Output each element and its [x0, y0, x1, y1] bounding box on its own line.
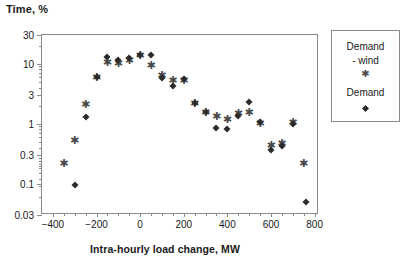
x-axis-minor-tick	[75, 213, 76, 216]
data-point-diamond	[191, 100, 198, 107]
data-point-star: ✱	[266, 140, 275, 151]
y-axis-minor-tick	[39, 88, 42, 89]
y-axis-minor-tick	[39, 161, 42, 162]
y-axis-title: Time, %	[6, 3, 48, 15]
y-axis-tick-label: 1	[28, 118, 34, 129]
x-axis-minor-tick	[86, 213, 87, 216]
data-point-diamond	[278, 143, 285, 150]
data-point-diamond	[302, 198, 309, 205]
x-axis-minor-tick	[293, 213, 294, 216]
chart-legend: Demand - wind ✱ Demand	[331, 30, 400, 122]
data-point-diamond	[289, 120, 296, 127]
data-point-star: ✱	[234, 108, 243, 119]
y-axis-minor-tick	[39, 106, 42, 107]
data-point-diamond	[115, 56, 122, 63]
data-point-star: ✱	[299, 158, 308, 169]
x-axis-tick	[227, 213, 228, 217]
data-point-star: ✱	[103, 57, 112, 68]
data-point-diamond	[104, 53, 111, 60]
data-point-diamond	[126, 54, 133, 61]
data-point-star: ✱	[114, 58, 123, 69]
x-axis-minor-tick	[304, 213, 305, 216]
y-axis-minor-tick	[39, 73, 42, 74]
data-point-star: ✱	[168, 75, 177, 86]
y-axis-minor-tick	[39, 197, 42, 198]
data-point-star: ✱	[92, 71, 101, 82]
x-axis-minor-tick	[107, 213, 108, 216]
data-point-diamond	[169, 82, 176, 89]
x-axis-minor-tick	[173, 213, 174, 216]
x-axis-minor-tick	[282, 213, 283, 216]
x-axis-tick-label: 0	[137, 219, 143, 230]
y-axis-minor-tick	[39, 69, 42, 70]
y-axis-minor-tick	[39, 166, 42, 167]
data-point-diamond	[82, 113, 89, 120]
y-axis-tick	[37, 215, 42, 216]
x-axis-title: Intra-hourly load change, MW	[0, 243, 330, 255]
x-axis-minor-tick	[64, 213, 65, 216]
data-point-diamond	[180, 75, 187, 82]
data-point-star: ✱	[146, 59, 155, 70]
data-point-diamond	[148, 51, 155, 58]
legend-entry-0-label-line1: Demand	[347, 41, 385, 53]
data-point-star: ✱	[136, 50, 145, 61]
data-point-star: ✱	[277, 138, 286, 149]
x-axis-minor-tick	[195, 213, 196, 216]
data-point-diamond	[267, 146, 274, 153]
data-point-star: ✱	[179, 75, 188, 86]
x-axis-tick-label: 800	[306, 219, 323, 230]
y-axis-tick-label: 0.03	[15, 210, 34, 221]
x-axis-minor-tick	[260, 213, 261, 216]
y-axis-tick	[37, 184, 42, 185]
y-axis-tick-label: 10	[23, 58, 34, 69]
x-axis-minor-tick	[129, 213, 130, 216]
data-point-diamond	[235, 112, 242, 119]
data-point-star: ✱	[70, 135, 79, 146]
y-axis-tick-label: 30	[23, 30, 34, 41]
data-point-star: ✱	[201, 106, 210, 117]
y-axis-minor-tick	[39, 148, 42, 149]
data-point-star: ✱	[81, 99, 90, 110]
data-point-diamond	[71, 181, 78, 188]
x-axis-minor-tick	[216, 213, 217, 216]
x-axis-minor-tick	[206, 213, 207, 216]
data-point-star: ✱	[59, 158, 68, 169]
data-point-star: ✱	[125, 55, 134, 66]
x-axis-tick	[315, 213, 316, 217]
x-axis-tick-label: 200	[175, 219, 192, 230]
data-point-diamond	[257, 119, 264, 126]
data-point-star: ✱	[245, 107, 254, 118]
legend-entry-1-label-line1: Demand	[347, 87, 385, 99]
data-point-star: ✱	[256, 118, 265, 129]
y-axis-minor-tick	[39, 137, 42, 138]
data-point-diamond	[137, 51, 144, 58]
x-axis-tick-label: 600	[263, 219, 280, 230]
data-point-diamond	[158, 75, 165, 82]
x-axis-tick	[271, 213, 272, 217]
x-axis-minor-tick	[162, 213, 163, 216]
y-axis-minor-tick	[39, 158, 42, 159]
data-point-layer: ✱✱✱✱✱✱✱✱✱✱✱✱✱✱✱✱✱✱✱✱✱✱✱	[42, 35, 317, 213]
y-axis-minor-tick	[39, 168, 42, 169]
data-point-diamond	[224, 125, 231, 132]
y-axis-minor-tick	[39, 155, 42, 156]
legend-star-marker-icon: ✱	[361, 69, 369, 79]
data-point-star: ✱	[288, 117, 297, 128]
x-axis-tick-label: 400	[219, 219, 236, 230]
plot-area: ✱✱✱✱✱✱✱✱✱✱✱✱✱✱✱✱✱✱✱✱✱✱✱ 3010310.30.10.03…	[41, 34, 318, 214]
y-axis-tick-label: 0.3	[20, 150, 34, 161]
x-axis-minor-tick	[238, 213, 239, 216]
x-axis-minor-tick	[151, 213, 152, 216]
x-axis-minor-tick	[118, 213, 119, 216]
y-axis-minor-tick	[39, 77, 42, 78]
x-axis-tick	[53, 213, 54, 217]
y-axis-minor-tick	[39, 129, 42, 130]
y-axis-minor-tick	[39, 82, 42, 83]
y-axis-tick-label: 3	[28, 90, 34, 101]
y-axis-tick	[37, 35, 42, 36]
y-axis-minor-tick	[39, 126, 42, 127]
chart-canvas: Time, % ✱✱✱✱✱✱✱✱✱✱✱✱✱✱✱✱✱✱✱✱✱✱✱ 3010310.…	[0, 0, 406, 266]
y-axis-minor-tick	[39, 179, 42, 180]
data-point-star: ✱	[157, 70, 166, 81]
data-point-diamond	[246, 98, 253, 105]
